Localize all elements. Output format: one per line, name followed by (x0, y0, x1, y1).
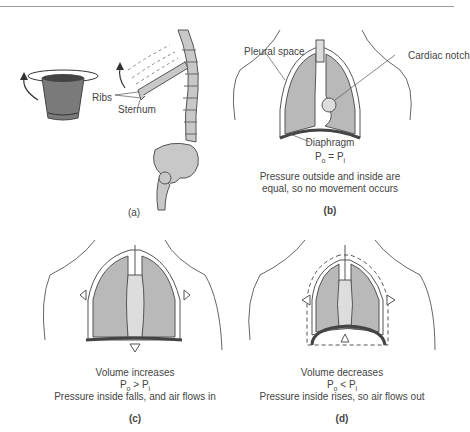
caption-d-line1: Volume decreases (301, 367, 383, 378)
caption-b-line2: equal, so no movement occurs (262, 183, 398, 194)
pressure-equation-b: Po = Pi (315, 151, 345, 164)
panel-d-label: (d) (336, 413, 349, 424)
cardiac-notch-label: Cardiac notch (408, 50, 470, 61)
panel-b-label: (b) (324, 205, 337, 216)
panel-a: Ribs Sternum (a) (0, 0, 230, 240)
caption-b-line1: Pressure outside and inside are (260, 171, 401, 182)
lungs-rest-illustration (230, 30, 454, 240)
caption-d-line2: Pressure inside rises, so air flows out (259, 391, 424, 402)
pleural-space-label: Pleural space (244, 46, 305, 57)
diaphragm-label: Diaphragm (306, 137, 355, 148)
lungs-expiration-illustration (230, 240, 454, 432)
ribs-label: Ribs (92, 92, 112, 103)
caption-c-line1: Volume increases (96, 367, 175, 378)
panel-b: Pleural space Cardiac notch Diaphragm Po… (230, 30, 454, 240)
bucket-spine-illustration (0, 0, 230, 240)
panel-c: Volume increases Po > Pi Pressure inside… (0, 240, 230, 432)
sternum-label: Sternum (118, 104, 156, 115)
panel-c-label: (c) (129, 413, 141, 424)
caption-c-line2: Pressure inside falls, and air flows in (54, 391, 216, 402)
lungs-inspiration-illustration (0, 240, 230, 432)
panel-d: Volume decreases Po < Pi Pressure inside… (230, 240, 454, 432)
panel-a-label: (a) (128, 207, 140, 218)
